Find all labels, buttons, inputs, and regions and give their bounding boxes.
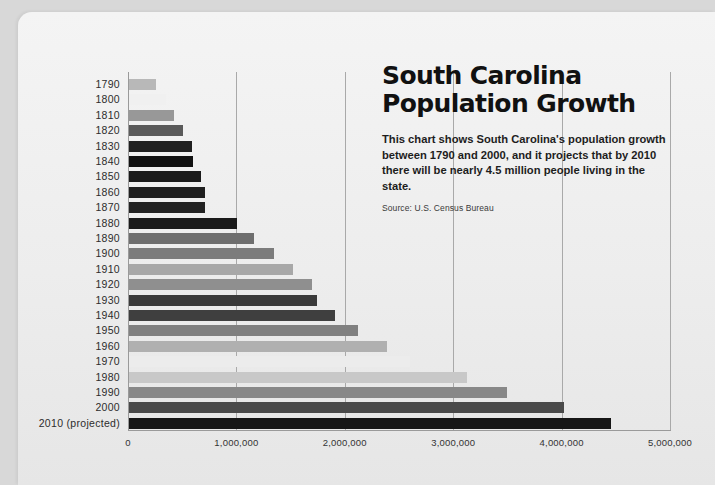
- chart-plot-area: 01,000,0002,000,0003,000,0004,000,0005,0…: [0, 0, 715, 485]
- bar: [129, 279, 312, 290]
- bar: [129, 341, 387, 352]
- bar: [129, 356, 410, 367]
- y-axis-category-label: 1890: [0, 232, 120, 245]
- x-axis-tick-label: 1,000,000: [214, 437, 258, 448]
- bar: [129, 372, 467, 383]
- bar-row: 2000: [0, 401, 715, 414]
- x-axis-tick-label: 2,000,000: [323, 437, 367, 448]
- y-axis-category-label: 1900: [0, 247, 120, 260]
- bar: [129, 141, 192, 152]
- title-block: South Carolina Population Growth This ch…: [382, 62, 682, 213]
- bar-row: 1950: [0, 324, 715, 337]
- bar-row: 1930: [0, 294, 715, 307]
- bar: [129, 94, 166, 105]
- bar-row: 1880: [0, 217, 715, 230]
- bar: [129, 171, 201, 182]
- bar: [129, 125, 183, 136]
- bar-row: 1980: [0, 371, 715, 384]
- bar-row: 1920: [0, 278, 715, 291]
- chart-source: Source: U.S. Census Bureau: [382, 203, 682, 213]
- bar: [129, 418, 611, 429]
- bar: [129, 310, 335, 321]
- y-axis-category-label: 1910: [0, 263, 120, 276]
- y-axis-category-label: 1810: [0, 109, 120, 122]
- bar-row: 1970: [0, 355, 715, 368]
- bar: [129, 233, 254, 244]
- y-axis-category-label: 1990: [0, 386, 120, 399]
- y-axis-category-label: 1800: [0, 93, 120, 106]
- bar: [129, 387, 507, 398]
- y-axis-category-label: 1850: [0, 170, 120, 183]
- y-axis-category-label: 1940: [0, 309, 120, 322]
- bar: [129, 325, 358, 336]
- y-axis-category-label: 1970: [0, 355, 120, 368]
- bar: [129, 248, 274, 259]
- y-axis-category-label: 1950: [0, 324, 120, 337]
- y-axis-category-label: 1930: [0, 294, 120, 307]
- bar: [129, 402, 564, 413]
- bar: [129, 187, 205, 198]
- y-axis-category-label: 1820: [0, 124, 120, 137]
- chart-description: This chart shows South Carolina's popula…: [382, 132, 674, 194]
- bar: [129, 156, 193, 167]
- y-axis-category-label: 1920: [0, 278, 120, 291]
- bar: [129, 110, 174, 121]
- bar-row: 2010 (projected): [0, 417, 715, 430]
- y-axis-category-label: 1830: [0, 140, 120, 153]
- x-axis-tick-label: 4,000,000: [540, 437, 584, 448]
- bar-row: 1900: [0, 247, 715, 260]
- bar-row: 1910: [0, 263, 715, 276]
- bar-row: 1890: [0, 232, 715, 245]
- y-axis-category-label: 1960: [0, 340, 120, 353]
- bar: [129, 218, 237, 229]
- x-axis-tick-label: 0: [125, 437, 130, 448]
- y-axis-category-label: 1880: [0, 217, 120, 230]
- bar: [129, 79, 156, 90]
- y-axis-category-label: 2000: [0, 401, 120, 414]
- y-axis-category-label: 2010 (projected): [0, 417, 120, 430]
- bar-row: 1960: [0, 340, 715, 353]
- y-axis-category-label: 1980: [0, 371, 120, 384]
- y-axis-category-label: 1790: [0, 78, 120, 91]
- bar: [129, 264, 293, 275]
- x-axis-tick-label: 3,000,000: [431, 437, 475, 448]
- y-axis-category-label: 1860: [0, 186, 120, 199]
- y-axis-category-label: 1870: [0, 201, 120, 214]
- x-axis-tick-label: 5,000,000: [648, 437, 692, 448]
- bar-row: 1940: [0, 309, 715, 322]
- bar: [129, 295, 317, 306]
- page-title-line-1: South Carolina: [382, 62, 682, 90]
- x-axis-line: [128, 430, 671, 431]
- y-axis-category-label: 1840: [0, 155, 120, 168]
- bar-row: 1990: [0, 386, 715, 399]
- bar: [129, 202, 205, 213]
- page-title-line-2: Population Growth: [382, 90, 682, 118]
